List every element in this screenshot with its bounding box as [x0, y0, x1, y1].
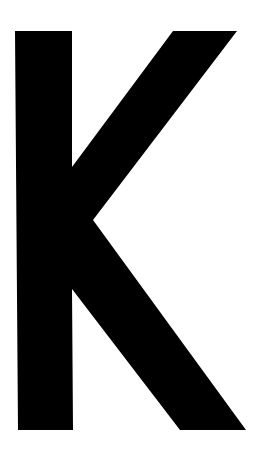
letter-canvas: K [0, 0, 270, 453]
letter-k-glyph [0, 0, 270, 453]
